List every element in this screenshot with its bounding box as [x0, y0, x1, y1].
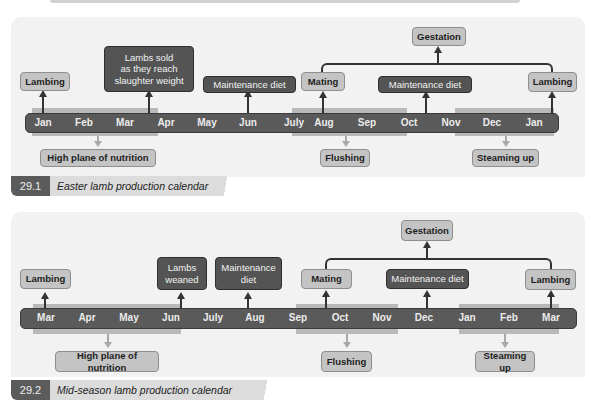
- arrow-up-icon: [41, 292, 49, 299]
- arrow-down-icon: [343, 342, 351, 348]
- figure-title: Easter lamb production calendar: [57, 180, 208, 192]
- month-label: Feb: [75, 117, 93, 128]
- month-label: Jan: [34, 117, 51, 128]
- month-label: Aug: [314, 117, 333, 128]
- arrow-line: [425, 96, 427, 113]
- month-label: Mar: [542, 312, 560, 323]
- lambing-box: Lambing: [528, 72, 577, 92]
- gestation-box: Gestation: [401, 220, 453, 241]
- arrow-down-icon: [501, 342, 509, 348]
- month-label: Feb: [500, 312, 518, 323]
- maintenance-diet-box: Maintenance diet: [203, 76, 296, 93]
- maintenance-diet-box: Maintenance diet: [378, 76, 472, 93]
- arrow-line: [325, 295, 327, 309]
- gestation-bracket: [321, 63, 553, 73]
- month-label: May: [119, 312, 138, 323]
- month-label: Jun: [162, 312, 180, 323]
- steaming-up-box: Steaming up: [472, 149, 539, 167]
- lambs-sold-box: Lambs sold as they reach slaughter weigh…: [104, 46, 194, 92]
- figure-number: 29.2: [11, 380, 50, 400]
- arrow-up-icon: [423, 290, 431, 297]
- month-label: Jan: [458, 312, 475, 323]
- lambs-weaned-box: Lambs weaned: [157, 257, 207, 290]
- top-divider-bar: [50, 0, 520, 3]
- arrow-up-icon: [177, 292, 185, 299]
- arrow-up-icon: [423, 241, 431, 248]
- arrow-up-icon: [322, 290, 330, 297]
- high-plane-box: High plane of nutrition: [40, 149, 156, 167]
- lambing-box: Lambing: [525, 269, 576, 290]
- month-label: Nov: [442, 117, 461, 128]
- lambing-box: Lambing: [20, 269, 71, 289]
- arrow-down-icon: [104, 342, 112, 348]
- arrow-up-icon: [319, 91, 327, 98]
- month-label: Jun: [239, 117, 257, 128]
- arrow-line: [322, 96, 324, 113]
- month-label: Apr: [157, 117, 174, 128]
- arrow-up-icon: [39, 90, 47, 97]
- month-label: Oct: [401, 117, 418, 128]
- month-label: Oct: [332, 312, 349, 323]
- month-label: Aug: [245, 312, 264, 323]
- arrow-line: [551, 96, 553, 113]
- arrow-line: [247, 95, 249, 113]
- timeline-bar-easter: Jan Feb Mar Apr May Jun July Aug Sep Oct…: [25, 113, 559, 133]
- maintenance-diet-box: Maintenance diet: [386, 269, 469, 289]
- figure-title: Mid-season lamb production calendar: [57, 384, 232, 396]
- gestation-box: Gestation: [412, 27, 466, 46]
- high-plane-box: High plane of nutrition: [55, 351, 159, 372]
- arrow-up-icon: [244, 292, 252, 299]
- month-label: Mar: [37, 312, 55, 323]
- month-label: May: [197, 117, 216, 128]
- month-label: Dec: [483, 117, 501, 128]
- arrow-up-icon: [547, 290, 555, 297]
- timeline-bar-mid-season: Mar Apr May Jun July Aug Sep Oct Nov Dec…: [20, 308, 577, 329]
- steaming-up-box: Steaming up: [475, 351, 535, 372]
- mating-box: Mating: [301, 269, 352, 289]
- figure-number: 29.1: [11, 176, 50, 196]
- month-label: Sep: [358, 117, 376, 128]
- month-label: Nov: [373, 312, 392, 323]
- flushing-box: Flushing: [320, 149, 370, 167]
- maintenance-diet-box: Maintenance diet: [215, 257, 282, 290]
- lambing-box: Lambing: [20, 72, 70, 91]
- flushing-box: Flushing: [321, 351, 372, 372]
- arrow-line: [148, 95, 150, 113]
- month-label: Jan: [525, 117, 542, 128]
- arrow-up-icon: [548, 91, 556, 98]
- arrow-down-icon: [342, 141, 350, 147]
- month-label: July: [203, 312, 223, 323]
- month-label: July: [284, 117, 304, 128]
- arrow-line: [550, 295, 552, 309]
- month-label: Sep: [289, 312, 307, 323]
- arrow-down-icon: [94, 141, 102, 147]
- arrow-line: [42, 95, 44, 113]
- month-label: Apr: [78, 312, 95, 323]
- arrow-down-icon: [502, 141, 510, 147]
- mating-box: Mating: [301, 72, 345, 91]
- month-label: Dec: [415, 312, 433, 323]
- month-label: Mar: [116, 117, 134, 128]
- arrow-line: [426, 295, 428, 309]
- arrow-up-icon: [434, 46, 442, 53]
